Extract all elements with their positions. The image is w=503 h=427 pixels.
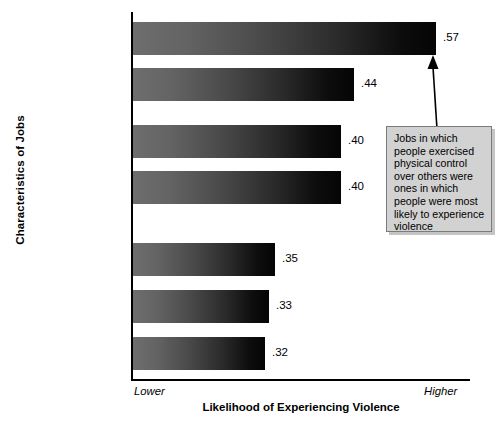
bar — [133, 337, 265, 370]
y-axis-title: Characteristics of Jobs — [14, 90, 26, 270]
scale-anchor-high: Higher — [424, 385, 457, 397]
violence-likelihood-bar-chart: Characteristics of Jobs Exercising physi… — [0, 0, 503, 427]
bar — [133, 22, 436, 55]
annotation-callout-box: Jobs in which people exercised physical … — [386, 126, 492, 232]
bar-value-label: .35 — [282, 252, 298, 264]
bar — [133, 125, 341, 158]
bar-value-label: .40 — [348, 180, 364, 192]
bar-value-label: .32 — [272, 346, 288, 358]
x-axis-line — [131, 379, 470, 381]
bar — [133, 243, 275, 276]
bar — [133, 171, 341, 204]
bar-value-label: .40 — [348, 134, 364, 146]
bar-value-label: .33 — [276, 299, 292, 311]
scale-anchor-low: Lower — [134, 385, 165, 397]
bar — [133, 290, 269, 323]
bar-value-label: .44 — [361, 77, 377, 89]
annotation-callout-text: Jobs in which people exercised physical … — [394, 132, 488, 233]
bar — [133, 68, 354, 101]
bar-value-label: .57 — [443, 31, 459, 43]
x-axis-title: Likelihood of Experiencing Violence — [132, 401, 470, 413]
